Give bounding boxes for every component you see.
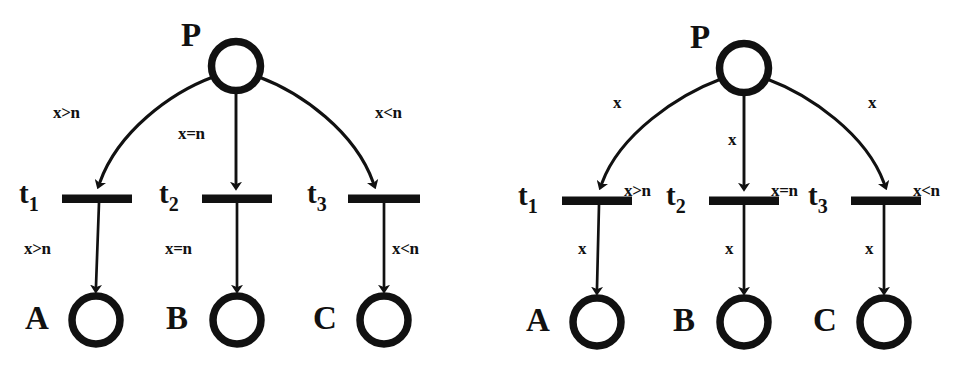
arc-label-t3-to-C-left: x<n — [392, 240, 419, 257]
transition-t1-letter-right: t — [518, 179, 528, 211]
place-C-circle-right — [860, 298, 908, 346]
arc-label-t2-to-B-left: x=n — [165, 240, 192, 257]
transition-t1-sub-left: 1 — [29, 193, 39, 215]
arc-label-t2-to-B-right: x — [725, 240, 733, 257]
transition-t1-sub-right: 1 — [528, 195, 538, 217]
place-A-circle-left — [72, 296, 120, 344]
transition-t3-label-right: t3 — [808, 181, 828, 216]
place-B-circle-right — [720, 298, 768, 346]
place-P-label-right: P — [690, 21, 710, 54]
right-panel-graphics — [562, 44, 921, 347]
guard-label-t2-right: x=n — [771, 182, 798, 199]
place-A-label-left: A — [25, 302, 49, 335]
transition-t2-sub-right: 2 — [676, 195, 686, 217]
left-panel-graphics — [62, 42, 420, 345]
place-A-label-right: A — [526, 304, 550, 337]
arc-P-to-t3-left — [259, 77, 373, 182]
arc-label-P-to-t2-right: x — [728, 131, 736, 148]
arc-label-P-to-t3-left: x<n — [375, 104, 402, 121]
place-P-label-left: P — [181, 19, 201, 52]
arc-label-P-to-t3-right: x — [868, 94, 876, 111]
place-A-circle-right — [573, 298, 621, 346]
place-P-circle-right — [720, 44, 769, 93]
transition-t2-letter-right: t — [666, 179, 676, 211]
place-C-circle-left — [360, 296, 408, 344]
guard-label-t1-right: x>n — [624, 182, 651, 199]
arc-t1-to-A-left — [96, 203, 99, 286]
arc-label-t1-to-A-left: x>n — [24, 240, 51, 257]
arc-t1-to-A-right — [597, 205, 599, 288]
transition-t3-sub-right: 3 — [818, 195, 828, 217]
transition-t3-sub-left: 3 — [317, 193, 327, 215]
guard-label-t3-right: x<n — [913, 182, 940, 199]
place-B-label-right: B — [673, 304, 695, 337]
transition-t1-bar-left — [62, 195, 132, 204]
transition-t2-label-left: t2 — [159, 179, 179, 214]
transition-t2-label-right: t2 — [666, 181, 686, 216]
place-B-label-left: B — [166, 302, 188, 335]
transition-t1-letter-left: t — [19, 177, 29, 209]
transition-t1-label-right: t1 — [518, 181, 538, 216]
transition-t2-letter-left: t — [159, 177, 169, 209]
place-P-circle-left — [212, 42, 261, 91]
transition-t2-sub-left: 2 — [169, 193, 179, 215]
transition-t1-bar-right — [562, 197, 632, 206]
transition-t3-label-left: t3 — [307, 179, 327, 214]
place-B-circle-left — [213, 296, 261, 344]
arc-label-P-to-t1-left: x>n — [53, 104, 80, 121]
arc-label-P-to-t2-left: x=n — [178, 125, 205, 142]
petri-net-figure: P x>n x=n x<n t1 t2 t3 x>n x=n x<n A B C… — [0, 0, 977, 388]
arc-label-t1-to-A-right: x — [578, 240, 586, 257]
arc-label-t3-to-C-right: x — [865, 240, 873, 257]
place-C-label-left: C — [313, 302, 337, 335]
place-C-label-right: C — [813, 304, 837, 337]
transition-t3-letter-left: t — [307, 177, 317, 209]
transition-t3-bar-right — [851, 197, 921, 206]
transition-t1-label-left: t1 — [19, 179, 39, 214]
transition-t3-letter-right: t — [808, 179, 818, 211]
arc-label-P-to-t1-right: x — [613, 94, 621, 111]
arc-P-to-t3-right — [767, 79, 884, 183]
